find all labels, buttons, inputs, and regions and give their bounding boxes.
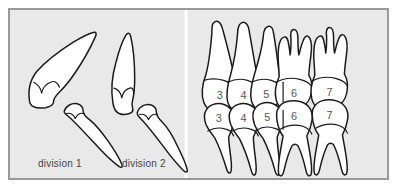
upper-row-group: 3 4 5 6 bbox=[202, 21, 347, 111]
lower-tooth-5-number: 5 bbox=[264, 111, 270, 123]
lower-row-group: 3 4 5 6 bbox=[204, 100, 347, 176]
lower-tooth-6: 6 bbox=[277, 101, 313, 176]
division-1-group bbox=[29, 32, 122, 167]
lower-tooth-3-number: 3 bbox=[216, 112, 222, 124]
upper-tooth-7: 7 bbox=[311, 28, 347, 110]
lower-tooth-6-number: 6 bbox=[291, 110, 297, 122]
upper-tooth-6: 6 bbox=[275, 30, 311, 111]
figure-frame: .t { fill:#ffffff; stroke:#1a1a1a; strok… bbox=[8, 8, 389, 180]
upper-tooth-5-number: 5 bbox=[263, 88, 269, 100]
lower-tooth-7: 7 bbox=[312, 100, 348, 175]
upper-tooth-4-number: 4 bbox=[240, 89, 246, 101]
lower-tooth-7-number: 7 bbox=[327, 109, 333, 121]
upper-tooth-3-number: 3 bbox=[217, 89, 223, 101]
division-1-label: division 1 bbox=[38, 158, 82, 169]
dental-occlusion-figure: .t { fill:#ffffff; stroke:#1a1a1a; strok… bbox=[0, 0, 399, 189]
division1-upper-incisor bbox=[29, 32, 96, 108]
diagram-canvas: .t { fill:#ffffff; stroke:#1a1a1a; strok… bbox=[10, 10, 387, 178]
lower-tooth-4-number: 4 bbox=[240, 112, 246, 124]
upper-tooth-6-number: 6 bbox=[291, 87, 297, 99]
division-2-label: division 2 bbox=[122, 158, 166, 169]
upper-tooth-7-number: 7 bbox=[327, 86, 333, 98]
division2-upper-incisor bbox=[112, 33, 135, 114]
division-2-group bbox=[112, 33, 187, 172]
